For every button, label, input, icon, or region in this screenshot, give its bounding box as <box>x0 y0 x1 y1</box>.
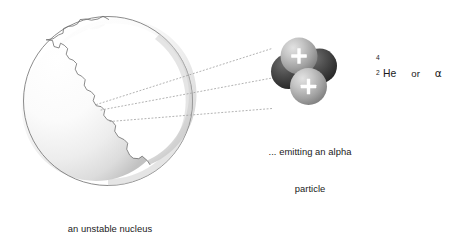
nucleus-caption: an unstable nucleus splits apart ... <box>32 199 188 236</box>
alpha-caption-line-2: particle <box>248 183 372 195</box>
nucleus-caption-line-1: an unstable nucleus <box>32 223 188 235</box>
figure-canvas: an unstable nucleus splits apart ... ...… <box>0 0 455 236</box>
alpha-symbol: α <box>435 68 442 78</box>
notation-conjunction: or <box>411 69 420 79</box>
element-symbol: He <box>383 69 396 79</box>
unstable-nucleus-graphic <box>22 16 197 185</box>
nucleus-body <box>22 19 148 181</box>
isotope-numbers: 4 2 <box>376 56 383 76</box>
alpha-particle-caption: ... emitting an alpha particle <box>248 122 372 220</box>
atomic-number: 2 <box>376 70 380 77</box>
isotope-notation: 4 2 He or α <box>376 56 442 78</box>
alpha-caption-line-1: ... emitting an alpha <box>248 146 372 158</box>
mass-number: 4 <box>376 55 380 62</box>
alpha-particle-graphic <box>271 38 337 106</box>
